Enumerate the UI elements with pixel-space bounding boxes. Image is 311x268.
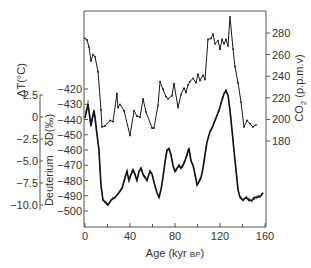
deuterium-tick-label: −480 — [57, 175, 82, 187]
co2-marker — [189, 81, 191, 83]
x-tick-label: 0 — [82, 230, 88, 242]
co2-marker — [217, 40, 219, 42]
x-axis: 04080120160 — [82, 223, 274, 242]
co2-marker — [104, 125, 106, 127]
co2-marker — [204, 79, 206, 81]
x-axis-title-main: Age (kyr — [146, 247, 190, 259]
deuterium-tick-label: −470 — [57, 159, 82, 171]
delta-t-tick-label: −10.0 — [10, 199, 38, 211]
delta-t-tick-label: −7.5 — [16, 177, 38, 189]
deuterium-tick-label: −430 — [57, 98, 82, 110]
x-tick-label: 160 — [256, 230, 274, 242]
co2-marker — [221, 39, 223, 41]
delta-t-tick-label: −5.0 — [16, 155, 38, 167]
co2-tick-label: 180 — [272, 135, 290, 147]
co2-marker — [117, 107, 119, 109]
co2-marker — [214, 43, 216, 45]
co2-marker — [192, 77, 194, 79]
co2-marker — [116, 93, 118, 95]
co2-marker — [167, 98, 169, 100]
co2-marker — [180, 94, 182, 96]
co2-marker — [84, 38, 86, 40]
co2-marker — [240, 101, 242, 103]
co2-marker — [109, 120, 111, 122]
co2-marker — [159, 81, 161, 83]
x-tick-label: 80 — [169, 230, 181, 242]
co2-marker — [88, 46, 90, 48]
co2-marker — [112, 121, 114, 123]
co2-marker — [151, 127, 153, 129]
co2-marker — [119, 103, 121, 105]
co2-marker — [101, 126, 103, 128]
deuterium-axis-title: Deuterium δD(‰) — [43, 114, 55, 206]
co2-marker — [97, 71, 99, 73]
x-tick-label: 40 — [124, 230, 136, 242]
co2-axis-title: CO2 (p.p.m.v) — [293, 54, 308, 121]
co2-marker — [195, 82, 197, 84]
co2-marker — [86, 39, 88, 41]
co2-marker — [142, 98, 144, 100]
co2-marker — [212, 33, 214, 35]
x-axis-title-unit: BP — [190, 250, 201, 259]
co2-marker — [94, 56, 96, 58]
co2-marker — [187, 84, 189, 86]
co2-marker — [246, 120, 248, 122]
deuterium-tick-label: −450 — [57, 129, 82, 141]
co2-marker — [199, 80, 201, 82]
x-axis-title-close: ) — [201, 247, 205, 259]
co2-marker — [232, 48, 234, 50]
deuterium-tick-label: −420 — [57, 83, 82, 95]
co2-marker — [223, 43, 225, 45]
co2-marker — [234, 66, 236, 68]
series-layer — [84, 16, 263, 206]
co2-marker — [219, 48, 221, 50]
chart-canvas: 2.50−2.5−5.0−7.5−10.0 ΔT(°C) −420−430−44… — [0, 0, 311, 268]
deuterium-line — [85, 91, 263, 205]
co2-label-main: CO — [293, 105, 305, 122]
delta-t-axis: 2.50−2.5−5.0−7.5−10.0 — [10, 89, 43, 211]
x-tick-label: 120 — [211, 230, 229, 242]
ice-core-chart: 2.50−2.5−5.0−7.5−10.0 ΔT(°C) −420−430−44… — [0, 0, 311, 268]
x-axis-title: Age (kyr BP) — [146, 247, 204, 259]
co2-marker — [225, 39, 227, 41]
co2-marker — [100, 109, 102, 111]
co2-tick-label: 240 — [272, 70, 290, 82]
co2-marker — [202, 74, 204, 76]
co2-marker — [197, 73, 199, 75]
co2-marker — [171, 95, 173, 97]
deuterium-tick-label: −500 — [57, 205, 82, 217]
co2-marker — [227, 45, 229, 47]
deuterium-label: Deuterium — [43, 155, 55, 206]
co2-marker — [173, 83, 175, 85]
co2-marker — [177, 107, 179, 109]
co2-tick-label: 260 — [272, 49, 290, 61]
co2-marker — [129, 135, 131, 137]
co2-marker — [157, 104, 159, 106]
co2-marker — [237, 82, 239, 84]
delta-d-label: δD(‰) — [43, 114, 55, 146]
co2-marker — [165, 96, 167, 98]
co2-marker — [153, 127, 155, 129]
co2-marker — [229, 16, 231, 18]
co2-marker — [145, 111, 147, 113]
co2-tick-label: 280 — [272, 27, 290, 39]
delta-t-axis-title: ΔT(°C) — [15, 63, 27, 97]
co2-marker — [183, 87, 185, 89]
co2-marker — [210, 38, 212, 40]
co2-marker — [207, 39, 209, 41]
co2-marker — [136, 115, 138, 117]
co2-axis: 280260240220200180 — [266, 27, 290, 147]
co2-marker — [249, 123, 251, 125]
delta-t-tick-label: −2.5 — [16, 133, 38, 145]
co2-tick-label: 220 — [272, 92, 290, 104]
co2-marker — [185, 92, 187, 94]
co2-marker — [92, 54, 94, 56]
co2-marker — [139, 116, 141, 118]
deuterium-tick-label: −460 — [57, 144, 82, 156]
co2-marker — [123, 110, 125, 112]
deuterium-tick-label: −490 — [57, 190, 82, 202]
co2-marker — [90, 60, 92, 62]
deuterium-tick-label: −440 — [57, 114, 82, 126]
co2-marker — [255, 124, 257, 126]
co2-marker — [162, 88, 164, 90]
